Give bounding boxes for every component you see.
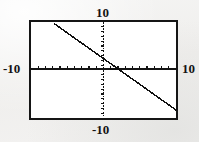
plot-frame [29,20,178,120]
y-axis-max-label: 10 [96,6,109,19]
y-axis-min-label: -10 [92,123,109,136]
plotted-line [54,24,176,111]
graph-screenshot: 10 -10 -10 10 [0,0,199,142]
plot-canvas [31,22,176,118]
x-axis-max-label: 10 [182,62,195,75]
x-axis-min-label: -10 [3,62,20,75]
